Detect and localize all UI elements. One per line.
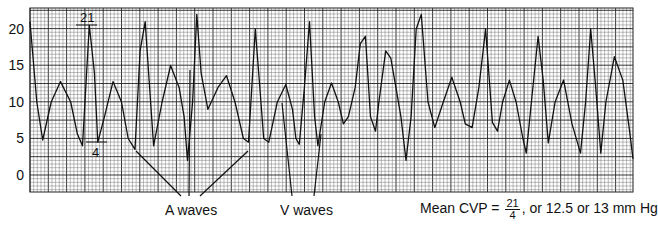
y-tick-5: 5 <box>0 131 24 145</box>
mean-cvp-fraction: 21 4 <box>505 198 519 221</box>
y-tick-15: 15 <box>0 58 24 72</box>
mean-cvp-prefix: Mean CVP = <box>420 200 500 216</box>
y-tick-10: 10 <box>0 95 24 109</box>
a-waves-label: A waves <box>165 202 217 218</box>
trough-value-label: 4 <box>92 146 99 159</box>
mean-cvp-suffix: , or 12.5 or 13 mm Hg <box>522 200 658 216</box>
y-tick-0: 0 <box>0 168 24 182</box>
peak-value-label: 21 <box>80 11 94 24</box>
y-tick-20: 20 <box>0 22 24 36</box>
fraction-denominator: 4 <box>505 210 519 221</box>
mean-cvp-caption: Mean CVP = 21 4 , or 12.5 or 13 mm Hg <box>420 198 658 221</box>
a-wave-pointer-2 <box>189 70 190 196</box>
v-waves-label: V waves <box>280 202 333 218</box>
